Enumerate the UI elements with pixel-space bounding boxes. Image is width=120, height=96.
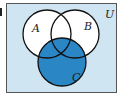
set-b-label: B	[83, 20, 92, 33]
left-margin-mark	[0, 8, 2, 16]
universe-label: U	[105, 8, 115, 21]
venn-diagram: A B C U	[0, 0, 120, 96]
set-c-label: C	[72, 71, 81, 84]
set-a-label: A	[31, 22, 40, 35]
